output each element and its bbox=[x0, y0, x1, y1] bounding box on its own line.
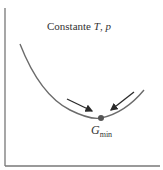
right-arrow bbox=[111, 92, 134, 110]
gmin-label: Gmin bbox=[91, 123, 112, 139]
gibbs-curve bbox=[20, 44, 144, 118]
minimum-point bbox=[98, 115, 104, 121]
left-arrow bbox=[67, 99, 92, 111]
condition-label: Constante T, p bbox=[47, 20, 111, 32]
